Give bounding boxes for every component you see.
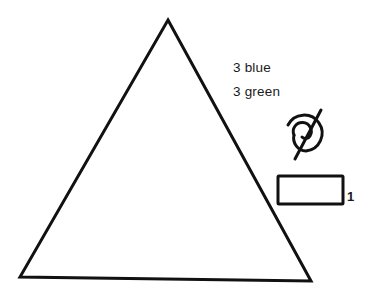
green-count-label: 3 green <box>233 85 280 99</box>
blue-count-label: 3 blue <box>233 61 271 75</box>
spiral-slash-icon <box>288 110 322 159</box>
rectangle-count-label: 1 <box>347 190 354 203</box>
small-rectangle <box>278 176 343 204</box>
diagram-canvas <box>0 0 373 297</box>
